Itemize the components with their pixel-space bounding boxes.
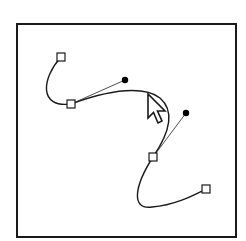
arrow-cursor-icon xyxy=(148,94,165,123)
anchor-3-square[interactable] xyxy=(149,153,157,161)
handle-2-point[interactable] xyxy=(183,110,189,116)
artboard-frame xyxy=(17,24,236,237)
anchor-2-square[interactable] xyxy=(67,100,75,108)
path-segment-1[interactable] xyxy=(46,57,71,104)
anchor-4-square[interactable] xyxy=(202,185,210,193)
handle-1-point[interactable] xyxy=(122,77,128,83)
anchor-1-square[interactable] xyxy=(57,53,65,61)
bezier-canvas[interactable] xyxy=(0,0,246,241)
anchor-points[interactable] xyxy=(57,53,210,193)
cursor-arrow-shape xyxy=(148,94,165,123)
path-segment-3[interactable] xyxy=(137,157,206,207)
